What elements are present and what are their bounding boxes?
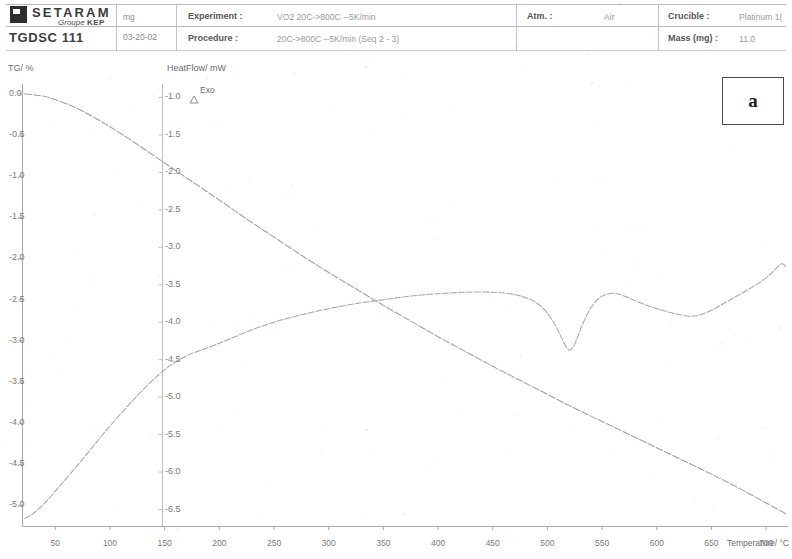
x-tick-label: 100 (101, 538, 119, 548)
crucible-value: Platinum 1( (739, 12, 782, 22)
scan-noise (287, 267, 289, 268)
scan-noise (242, 362, 245, 363)
logo-sub-group: Groupe (58, 18, 85, 27)
experiment-label: Experiment : (188, 11, 243, 21)
heatflow-tick-label: -1.5 (165, 129, 181, 139)
scan-noise (510, 448, 511, 449)
header-rule-top (6, 4, 786, 5)
scan-noise (520, 355, 522, 357)
scan-noise (324, 432, 325, 433)
scan-noise (19, 310, 21, 311)
scan-noise (320, 425, 321, 426)
scan-noise (233, 408, 234, 410)
scan-noise (175, 120, 177, 122)
scan-noise (327, 546, 329, 547)
scan-noise (575, 428, 577, 429)
x-tick-label: 150 (156, 538, 174, 548)
logo-sub-kep: KEP (87, 18, 105, 27)
scan-noise (19, 414, 22, 415)
tg-tick-label: -2.0 (9, 252, 25, 262)
report-header: SETARAM Groupe KEP TGDSC 111 mg 03-20-02… (0, 0, 792, 56)
heatflow-tick-label: -4.0 (165, 316, 181, 326)
scan-noise (270, 487, 272, 488)
scan-noise (515, 93, 516, 94)
scan-noise (757, 13, 759, 14)
scan-noise (516, 414, 518, 416)
scan-noise (75, 253, 76, 255)
scan-noise (695, 497, 696, 499)
panel-label-text: a (723, 78, 783, 124)
scan-noise (656, 26, 657, 27)
scan-noise (400, 77, 402, 78)
scan-noise (631, 230, 632, 231)
tg-curve (25, 94, 786, 514)
scan-noise (163, 141, 164, 142)
scan-noise (371, 89, 372, 90)
scan-noise (24, 443, 25, 444)
scan-noise (266, 327, 267, 329)
heatflow-tick-label: -6.0 (165, 466, 181, 476)
scan-noise (30, 401, 31, 402)
scan-noise (214, 322, 215, 323)
chart-canvas (0, 56, 792, 559)
scan-noise (496, 372, 498, 373)
scan-noise (778, 327, 780, 329)
crucible-label: Crucible : (668, 11, 710, 21)
scan-noise (132, 104, 133, 105)
scan-noise (526, 3, 527, 4)
scan-noise (773, 455, 774, 457)
chart-axes (23, 84, 789, 527)
scan-noise (94, 214, 96, 216)
x-tick-label: 200 (210, 538, 228, 548)
panel-label-box: a (722, 77, 784, 125)
scan-noise (372, 448, 373, 449)
scan-noise (26, 118, 28, 119)
scan-noise (590, 84, 593, 85)
header-divider-3 (516, 4, 517, 51)
setaram-logo-mark-icon (10, 6, 27, 23)
x-tick-label: 500 (538, 538, 556, 548)
scan-noise (593, 229, 594, 230)
scan-noise (678, 247, 679, 248)
scan-noise (765, 242, 767, 244)
scan-noise (519, 21, 522, 22)
scan-noise (364, 66, 366, 68)
scan-noise (439, 155, 441, 156)
atmosphere-label: Atm. : (527, 11, 553, 21)
scan-noise (494, 300, 496, 301)
scan-noise (326, 20, 327, 21)
scan-noise (442, 382, 444, 383)
scan-noise (459, 411, 460, 413)
scan-noise (78, 305, 79, 306)
x-tick-label: 550 (593, 538, 611, 548)
scan-noise (718, 350, 721, 352)
scan-noise (232, 326, 233, 327)
heatflow-tick-label: -2.5 (165, 204, 181, 214)
scan-noise (151, 434, 152, 436)
x-tick-label: 400 (429, 538, 447, 548)
exo-arrow-icon (190, 96, 198, 103)
scan-noise (424, 468, 426, 469)
scan-noise (634, 450, 635, 451)
scan-noise (17, 76, 18, 77)
mass-value: 11.0 (739, 34, 755, 44)
scan-noise (315, 230, 317, 232)
x-tick-label: 350 (374, 538, 392, 548)
scan-noise (252, 298, 254, 299)
scan-noise (320, 451, 323, 452)
tg-tick-label: -1.0 (9, 170, 25, 180)
scan-noise (215, 120, 217, 121)
scan-noise (179, 543, 181, 544)
tg-tick-label: -4.5 (9, 458, 25, 468)
scan-noise (717, 438, 719, 440)
scan-noise (371, 130, 372, 132)
scan-noise (404, 514, 405, 516)
scan-noise (201, 84, 202, 85)
scan-noise (756, 21, 758, 22)
scan-noise (231, 188, 232, 190)
scan-noise (596, 126, 597, 127)
scan-noise (508, 307, 509, 309)
scan-noise (54, 126, 55, 127)
scan-noise (258, 518, 260, 519)
scan-noise (50, 353, 52, 354)
